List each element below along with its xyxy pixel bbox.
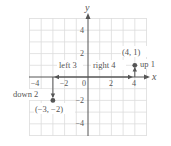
x-tick-label: −2: [60, 79, 69, 88]
y-tick-label: −2: [75, 96, 84, 105]
point-4-1: [132, 63, 137, 68]
down-arrowhead-icon: [51, 94, 55, 99]
coordinate-plane: x y −4 −2 0 2 4 4 2 −2 −4 left 3 right 4…: [0, 0, 171, 146]
move-label-right: right 4: [93, 60, 116, 70]
y-axis-label: y: [84, 2, 90, 13]
x-axis-label: x: [151, 71, 157, 82]
x-tick-label: 4: [132, 79, 136, 88]
x-tick-label: −4: [31, 79, 40, 88]
point-label-4-1: (4, 1): [122, 47, 141, 57]
x-tick-label: 2: [109, 79, 113, 88]
x-axis-arrow-icon: [144, 75, 150, 80]
y-tick-label: −4: [75, 119, 84, 128]
y-tick-label: 2: [80, 49, 84, 58]
point-label-neg3-neg2: (−3, −2): [35, 104, 63, 114]
move-label-up: up 1: [140, 59, 155, 69]
x-tick-label: 0: [82, 79, 86, 88]
left-arrowhead-icon: [54, 75, 59, 79]
point-neg3-neg2: [51, 98, 56, 103]
y-tick-label: 4: [80, 26, 84, 35]
move-label-left: left 3: [59, 60, 77, 70]
move-label-down: down 2: [13, 89, 38, 99]
y-axis-arrow-icon: [86, 13, 91, 19]
